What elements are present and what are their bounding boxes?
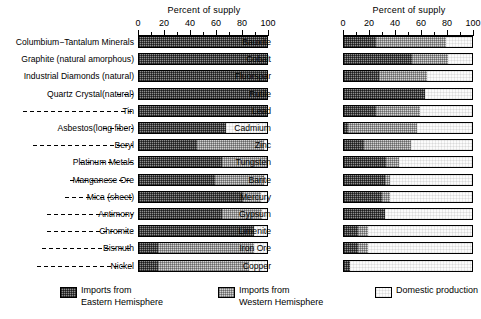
chart-legend: Imports from Eastern HemisphereImports f…: [0, 286, 480, 319]
x-tick-labels-left: 020406080100: [0, 18, 272, 29]
legend-label: Domestic production: [396, 285, 478, 297]
chart-bar-row: Gypsum: [276, 208, 480, 220]
bar-row-label: Mercury: [240, 191, 271, 203]
axis-tick-major: [190, 30, 191, 35]
chart-bar-row: Mercury: [276, 191, 480, 203]
bar-segment-east: [139, 140, 197, 150]
bar-row-label: Lead: [252, 105, 271, 117]
bar-segment-west: [158, 261, 249, 271]
stacked-bar: [343, 208, 473, 220]
bar-row-leader-line: [42, 248, 133, 249]
bar-row-label: Zinc: [255, 139, 271, 151]
stacked-bar: [138, 105, 268, 117]
axis-tick-label: 80: [237, 18, 247, 28]
stacked-bar: [343, 260, 473, 272]
bar-segment-east: [139, 123, 226, 133]
bar-segment-west: [376, 106, 420, 116]
axis-tick-label: 40: [185, 18, 195, 28]
chart-bar-row: Nickel: [0, 260, 272, 272]
bar-row-leader-line: [23, 111, 133, 112]
bar-segment-east: [139, 106, 267, 116]
chart-bar-row: Bauxite: [276, 36, 480, 48]
chart-bar-row: Beryl: [0, 139, 272, 151]
x-axis-left: [0, 29, 272, 36]
axis-tick-minor: [356, 32, 357, 35]
bar-row-leader-line: [33, 145, 134, 146]
bar-segment-west: [358, 226, 368, 236]
bar-segment-east: [344, 140, 364, 150]
chart-bar-row: Manganese Ore: [0, 174, 272, 186]
bar-row-label: Barite: [249, 174, 271, 186]
axis-tick-label: 20: [364, 18, 374, 28]
bar-segment-dom: [350, 261, 472, 271]
stacked-bar: [343, 105, 473, 117]
bar-segment-dom: [427, 71, 472, 81]
chart-bar-row: Industrial Diamonds (natural): [0, 70, 272, 82]
bar-row-leader-line: [103, 128, 133, 129]
bar-row-leader-line: [117, 94, 133, 95]
axis-tick-minor: [434, 32, 435, 35]
axis-tick-major: [164, 30, 165, 35]
chart-bar-row: Copper: [276, 260, 480, 272]
axis-tick-minor: [151, 32, 152, 35]
bar-segment-dom: [390, 192, 472, 202]
bar-segment-east: [344, 89, 425, 99]
bar-row-label: Industrial Diamonds (natural): [24, 70, 134, 82]
axis-tick-major: [447, 30, 448, 35]
chart-bar-row: Limenite: [276, 225, 480, 237]
legend-swatch-dom: [375, 287, 392, 298]
bar-row-label: Cadmium: [234, 122, 271, 134]
bar-segment-dom: [368, 243, 472, 253]
axis-tick-major: [138, 30, 139, 35]
bar-row-label: Copper: [243, 260, 271, 272]
axis-tick-label: 100: [260, 18, 275, 28]
stacked-bar: [343, 36, 473, 48]
stacked-bar: [343, 122, 473, 134]
axis-tick-label: 0: [340, 18, 345, 28]
bar-segment-west: [382, 192, 390, 202]
bar-segment-east: [344, 71, 379, 81]
stacked-bar: [343, 191, 473, 203]
bar-segment-east: [139, 192, 243, 202]
bar-row-label: Fluorspar: [235, 70, 271, 82]
axis-tick-label: 0: [135, 18, 140, 28]
bar-segment-dom: [385, 209, 472, 219]
bar-row-leader-line: [80, 162, 134, 163]
bar-segment-east: [344, 157, 386, 167]
chart-bar-row: Zinc: [276, 139, 480, 151]
x-axis-right: [276, 29, 480, 36]
bar-segment-east: [344, 209, 385, 219]
axis-tick-label: 60: [211, 18, 221, 28]
bar-segment-dom: [368, 226, 472, 236]
axis-tick-minor: [255, 32, 256, 35]
bar-segment-west: [376, 37, 446, 47]
bar-segment-dom: [417, 123, 472, 133]
chart-bar-row: Mica (sheet): [0, 191, 272, 203]
bar-segment-east: [344, 175, 385, 185]
stacked-bar: [343, 156, 473, 168]
bar-segment-dom: [411, 140, 472, 150]
stacked-bar: [343, 53, 473, 65]
bar-segment-east: [344, 243, 358, 253]
bar-segment-west: [412, 54, 448, 64]
bar-row-label: Graphite (natural amorphous): [21, 53, 134, 65]
legend-label: Imports from Western Hemisphere: [239, 285, 323, 308]
stacked-bar: [343, 242, 473, 254]
stacked-bar: [138, 139, 268, 151]
axis-title-left: Percent of supply: [138, 5, 270, 15]
bar-row-label: Cobalt: [246, 53, 271, 65]
chart-bar-row: Barite: [276, 174, 480, 186]
bar-row-leader-line: [37, 266, 133, 267]
bar-segment-west: [386, 157, 399, 167]
bar-segment-dom: [448, 54, 472, 64]
bar-segment-east: [344, 192, 382, 202]
chart-bar-row: Graphite (natural amorphous): [0, 53, 272, 65]
axis-tick-minor: [460, 32, 461, 35]
stacked-bar: [343, 139, 473, 151]
legend-swatch-west: [218, 287, 235, 298]
stacked-bar: [343, 70, 473, 82]
chart-bar-row: Rutile: [276, 88, 480, 100]
axis-tick-major: [369, 30, 370, 35]
axis-tick-minor: [408, 32, 409, 35]
axis-tick-major: [268, 30, 269, 35]
